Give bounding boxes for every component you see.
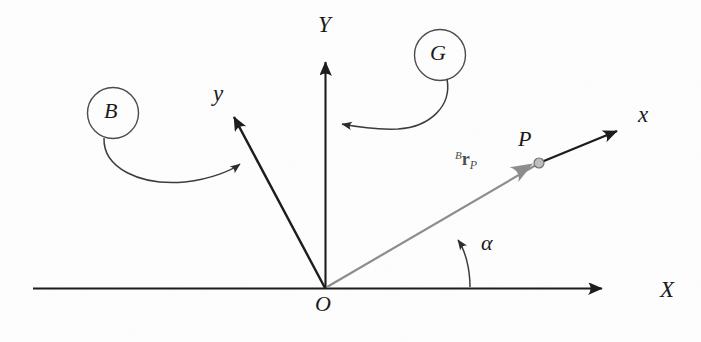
point-p-marker	[534, 158, 544, 168]
angle-alpha-label: α	[481, 232, 493, 254]
frame-b-label: B	[104, 100, 117, 122]
position-vector-line	[327, 165, 536, 287]
position-vector-group	[327, 156, 537, 287]
body-frame-axes	[234, 117, 617, 288]
frame-g-label: G	[430, 42, 446, 64]
x-axis-global-label: X	[660, 278, 674, 301]
position-vector-symbol: r	[462, 149, 470, 169]
position-vector-label: BrP	[455, 150, 477, 171]
frame-b-leader	[104, 138, 240, 183]
x-axis-body-label: x	[638, 103, 648, 126]
angle-alpha-arc	[458, 240, 470, 287]
x-axis-body-line-segment-black	[539, 131, 617, 163]
coordinate-frame-figure: X Y y x B G O P α BrP	[0, 0, 701, 342]
origin-label: O	[315, 293, 331, 315]
y-axis-global-label: Y	[318, 13, 331, 36]
position-vector-superscript: B	[455, 149, 462, 161]
position-vector-subscript: P	[470, 158, 477, 172]
y-axis-body-line	[234, 117, 325, 288]
frame-callout-g	[342, 30, 466, 130]
angle-alpha-group	[458, 240, 470, 287]
frame-g-leader	[342, 79, 448, 129]
y-axis-body-label: y	[213, 82, 223, 105]
figure-canvas	[0, 0, 701, 342]
point-p-label: P	[518, 128, 531, 150]
paper-grain-overlay	[0, 0, 701, 342]
